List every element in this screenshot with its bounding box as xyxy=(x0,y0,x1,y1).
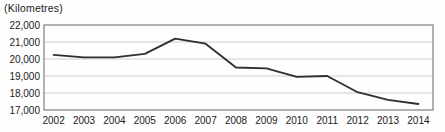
line-chart: (Kilometres) 22,00021,00020,00019,00018,… xyxy=(0,0,445,132)
x-tick-label: 2009 xyxy=(255,115,278,126)
x-tick-label: 2007 xyxy=(194,115,217,126)
x-tick-label: 2005 xyxy=(134,115,157,126)
x-tick-label: 2011 xyxy=(316,115,338,126)
plot-area: 22,00021,00020,00019,00018,00017,0002002… xyxy=(0,0,445,132)
x-tick-label: 2003 xyxy=(73,115,96,126)
x-tick-label: 2014 xyxy=(407,115,430,126)
data-line-series xyxy=(54,39,419,104)
y-tick-label: 21,000 xyxy=(9,37,40,48)
x-tick-label: 2013 xyxy=(377,115,400,126)
y-tick-label: 17,000 xyxy=(9,105,40,116)
x-tick-label: 2010 xyxy=(286,115,309,126)
y-tick-label: 19,000 xyxy=(9,71,40,82)
y-tick-label: 22,000 xyxy=(9,20,40,31)
x-tick-label: 2004 xyxy=(103,115,126,126)
x-tick-label: 2012 xyxy=(346,115,369,126)
x-tick-label: 2008 xyxy=(225,115,248,126)
x-tick-label: 2006 xyxy=(164,115,187,126)
y-tick-label: 20,000 xyxy=(9,54,40,65)
y-tick-label: 18,000 xyxy=(9,88,40,99)
x-tick-label: 2002 xyxy=(42,115,65,126)
